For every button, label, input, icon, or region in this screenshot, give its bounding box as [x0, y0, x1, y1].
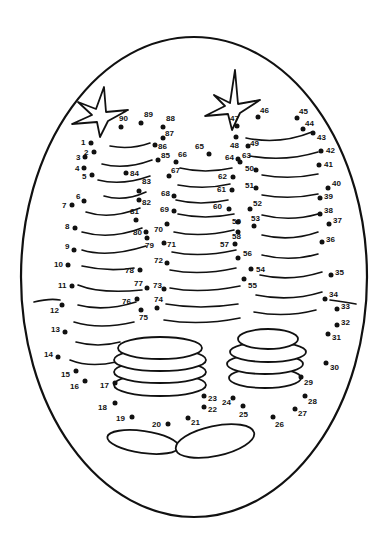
dot-number: 68: [161, 190, 170, 198]
dot-85: [156, 158, 161, 163]
dot-80: [144, 230, 149, 235]
dot-number: 64: [225, 154, 234, 162]
dot-number: 78: [125, 267, 134, 275]
dot-16: [83, 379, 88, 384]
dot-number: 7: [62, 202, 66, 210]
dot-number: 54: [256, 266, 265, 274]
coin-stack-front-right: [227, 329, 306, 388]
dot-number: 86: [158, 143, 167, 151]
dot-number: 50: [245, 165, 254, 173]
dot-5: [90, 173, 95, 178]
dot-12: [60, 303, 65, 308]
dot-82: [137, 198, 142, 203]
dot-number: 11: [58, 282, 66, 290]
dot-37: [327, 222, 332, 227]
dot-number: 90: [119, 115, 128, 123]
dot-46: [256, 115, 261, 120]
dot-78: [138, 268, 143, 273]
dot-number: 62: [218, 173, 227, 181]
dot-2: [92, 150, 97, 155]
dot-number: 27: [298, 410, 307, 418]
dot-10: [66, 263, 71, 268]
dot-60: [227, 207, 232, 212]
dot-61: [230, 188, 235, 193]
dot-28: [303, 394, 308, 399]
dot-number: 45: [299, 108, 308, 116]
dot-81: [134, 218, 139, 223]
loose-coins: [106, 418, 257, 464]
dot-33: [335, 307, 340, 312]
dot-26: [271, 415, 276, 420]
dot-51: [254, 186, 259, 191]
dot-13: [63, 330, 68, 335]
dot-number: 52: [253, 200, 262, 208]
dot-75: [139, 308, 144, 313]
dot-number: 23: [208, 395, 217, 403]
dot-number: 5: [82, 173, 86, 181]
dot-number: 21: [191, 419, 200, 427]
dot-number: 32: [341, 319, 350, 327]
dot-number: 40: [332, 180, 341, 188]
dot-number: 71: [167, 241, 176, 249]
dot-number: 82: [142, 199, 151, 207]
dot-number: 53: [251, 215, 260, 223]
dot-23: [202, 394, 207, 399]
dot-6: [82, 199, 87, 204]
dot-48: [234, 135, 239, 140]
dot-number: 38: [324, 207, 333, 215]
dot-number: 12: [50, 307, 59, 315]
dot-number: 35: [335, 269, 344, 277]
dot-number: 77: [134, 280, 143, 288]
dot-36: [320, 240, 325, 245]
dot-number: 28: [308, 398, 317, 406]
dot-number: 72: [154, 257, 163, 265]
dot-11: [70, 284, 75, 289]
dot-number: 16: [70, 383, 79, 391]
dot-41: [317, 163, 322, 168]
dot-22: [202, 405, 207, 410]
dot-43: [311, 131, 316, 136]
dot-88: [161, 125, 166, 130]
dot-17: [113, 381, 118, 386]
dot-19: [130, 415, 135, 420]
dot-number: 10: [54, 261, 63, 269]
dot-number: 14: [44, 351, 53, 359]
dot-number: 81: [130, 208, 139, 216]
dot-number: 3: [76, 154, 80, 162]
dot-number: 46: [260, 107, 269, 115]
dot-number: 9: [65, 243, 69, 251]
dot-64: [236, 157, 241, 162]
dot-74: [155, 306, 160, 311]
dot-32: [335, 323, 340, 328]
dot-14: [56, 355, 61, 360]
dot-27: [293, 407, 298, 412]
dot-47: [235, 124, 240, 129]
dot-71: [162, 241, 167, 246]
dot-number: 69: [160, 206, 169, 214]
dot-4: [82, 166, 87, 171]
dot-number: 30: [330, 364, 339, 372]
dot-number: 61: [217, 186, 226, 194]
dot-number: 79: [145, 242, 154, 250]
dot-number: 89: [144, 111, 153, 119]
dot-number: 31: [332, 334, 341, 342]
dot-number: 29: [304, 379, 313, 387]
dot-79: [145, 236, 150, 241]
dot-1: [89, 141, 94, 146]
dot-77: [145, 286, 150, 291]
dot-number: 85: [161, 152, 170, 160]
dot-86: [153, 143, 158, 148]
coin-stack-front-left: [114, 337, 206, 396]
dot-number: 84: [130, 170, 139, 178]
dot-62: [231, 175, 236, 180]
dot-15: [74, 369, 79, 374]
dot-31: [326, 332, 331, 337]
dot-number: 39: [324, 193, 333, 201]
dot-number: 67: [171, 167, 180, 175]
dot-number: 20: [152, 421, 161, 429]
dot-53: [252, 224, 257, 229]
dot-9: [72, 248, 77, 253]
dot-83: [137, 189, 142, 194]
dot-45: [295, 116, 300, 121]
dot-number: 59: [232, 218, 241, 226]
